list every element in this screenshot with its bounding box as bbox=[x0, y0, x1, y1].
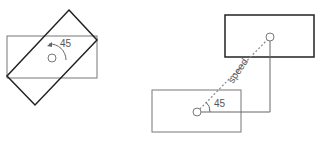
source-point bbox=[193, 108, 201, 116]
rotation-figure: 45 bbox=[7, 10, 97, 105]
movement-figure: 45 speed bbox=[152, 15, 314, 132]
arrowhead-icon bbox=[47, 42, 52, 47]
rotation-angle-label: 45 bbox=[60, 38, 72, 49]
target-point bbox=[266, 33, 274, 41]
rotated-rect bbox=[7, 10, 97, 105]
angle-label: 45 bbox=[214, 98, 226, 109]
diagram-canvas: 45 45 speed bbox=[0, 0, 320, 160]
speed-label: speed bbox=[226, 56, 250, 85]
pivot-circle bbox=[48, 54, 56, 62]
angle-arc-icon bbox=[206, 102, 210, 112]
